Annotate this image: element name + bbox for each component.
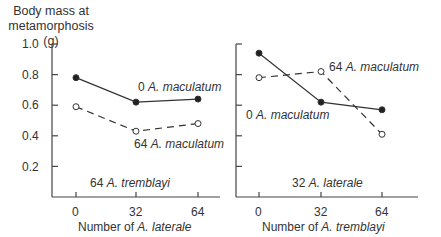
left-series-1-point <box>133 128 139 134</box>
right-series-1-point <box>379 131 385 137</box>
chart-canvas <box>0 0 441 237</box>
right-series-0-point <box>318 99 324 105</box>
left-series-1-line <box>76 107 198 131</box>
left-series-1-point <box>195 121 201 127</box>
right-series-1-point <box>256 75 262 81</box>
left-series-0-line <box>76 78 198 102</box>
left-series-1-point <box>73 104 79 110</box>
left-series-0-point <box>195 96 201 102</box>
right-series-0-point <box>256 50 262 56</box>
right-series-0-point <box>379 107 385 113</box>
left-series-0-point <box>73 75 79 81</box>
left-series-0-point <box>133 99 139 105</box>
right-series-1-point <box>318 69 324 75</box>
